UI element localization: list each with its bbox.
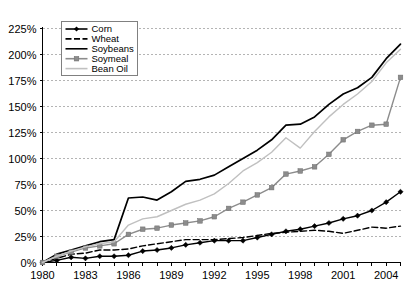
y-axis-tick-label: 25% <box>14 231 36 243</box>
legend-marker-soymeal <box>74 56 79 61</box>
data-point-marker-corn <box>97 254 102 259</box>
data-point-marker-corn <box>326 220 331 225</box>
chart-legend: CornWheatSoybeansSoymealBean Oil <box>62 22 138 76</box>
data-point-marker-corn <box>169 245 174 250</box>
y-axis-tick-label: 75% <box>14 179 36 191</box>
data-point-marker-corn <box>355 213 360 218</box>
data-point-marker-corn <box>312 224 317 229</box>
x-axis-tick-label: 1995 <box>245 269 269 281</box>
data-point-marker-soymeal <box>140 227 145 232</box>
data-point-marker-soymeal <box>384 122 389 127</box>
y-axis-tick-label: 175% <box>8 75 36 87</box>
y-axis-tick-label: 100% <box>8 153 36 165</box>
data-point-marker-soymeal <box>298 169 303 174</box>
data-point-marker-soymeal <box>341 137 346 142</box>
x-axis-tick-label: 2001 <box>331 269 355 281</box>
data-point-marker-soymeal <box>155 226 160 231</box>
x-axis-tick-label: 1989 <box>159 269 183 281</box>
series-line-bean-oil <box>43 49 401 262</box>
y-axis-tick-labels: 0%25%50%75%100%125%150%175%200%225% <box>8 23 36 269</box>
data-point-marker-soymeal <box>370 123 375 128</box>
y-axis-tick-label: 125% <box>8 127 36 139</box>
x-axis-tick-label: 2004 <box>374 269 398 281</box>
x-axis-tick-label: 1983 <box>73 269 97 281</box>
data-point-marker-soymeal <box>312 165 317 170</box>
data-series-group <box>40 44 403 265</box>
data-point-marker-soymeal <box>284 172 289 177</box>
data-point-marker-soymeal <box>269 185 274 190</box>
data-point-marker-corn <box>183 242 188 247</box>
y-axis-tick-label: 225% <box>8 23 36 35</box>
line-chart: 0%25%50%75%100%125%150%175%200%225% 1980… <box>0 0 411 297</box>
y-axis-tick-label: 0% <box>21 257 37 269</box>
data-point-marker-soymeal <box>212 214 217 219</box>
series-line-soymeal <box>43 77 401 262</box>
data-point-marker-soymeal <box>255 193 260 198</box>
data-point-marker-corn <box>240 238 245 243</box>
data-point-marker-corn <box>69 255 74 260</box>
legend-label-bean-oil: Bean Oil <box>92 63 128 74</box>
data-point-marker-corn <box>341 216 346 221</box>
data-point-marker-soymeal <box>169 223 174 228</box>
y-axis-tick-label: 200% <box>8 49 36 61</box>
x-axis-tick-label: 1992 <box>202 269 226 281</box>
data-point-marker-corn <box>83 256 88 261</box>
data-point-marker-soymeal <box>327 152 332 157</box>
data-point-marker-corn <box>140 248 145 253</box>
series-line-soybeans <box>43 44 401 262</box>
data-point-marker-corn <box>112 254 117 259</box>
x-axis-tick-label: 1980 <box>30 269 54 281</box>
data-point-marker-corn <box>154 247 159 252</box>
series-line-corn <box>43 192 401 263</box>
data-point-marker-soymeal <box>126 232 131 237</box>
data-point-marker-soymeal <box>226 206 231 211</box>
data-point-marker-corn <box>126 253 131 258</box>
y-axis-tick-label: 50% <box>14 205 36 217</box>
x-axis-tick-label: 1998 <box>288 269 312 281</box>
data-point-marker-corn <box>197 240 202 245</box>
y-axis-tick-label: 150% <box>8 101 36 113</box>
x-axis-tick-labels: 198019831986198919921995199820012004 <box>30 269 398 281</box>
x-axis-tick-label: 1986 <box>116 269 140 281</box>
data-point-marker-soymeal <box>355 129 360 134</box>
data-point-marker-soymeal <box>398 75 403 80</box>
data-point-marker-soymeal <box>183 221 188 226</box>
chart-container: 0%25%50%75%100%125%150%175%200%225% 1980… <box>0 0 411 297</box>
data-point-marker-soymeal <box>198 219 203 224</box>
data-point-marker-soymeal <box>241 200 246 205</box>
